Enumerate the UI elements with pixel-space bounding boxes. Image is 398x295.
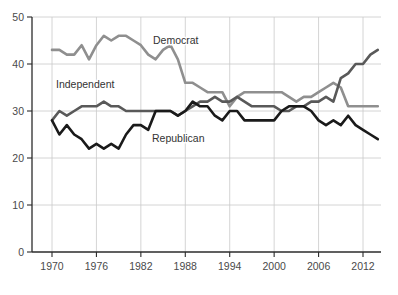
x-tick-label: 1970 [40, 260, 64, 272]
y-tick-label: 20 [12, 152, 24, 164]
x-tick-label: 2000 [262, 260, 286, 272]
y-tick-label: 30 [12, 105, 24, 117]
chart-canvas: 01020304050 1970197619821988199420002006… [0, 0, 398, 295]
y-tick-label: 10 [12, 199, 24, 211]
y-tick-label: 0 [18, 246, 24, 258]
x-tick-label: 1994 [218, 260, 242, 272]
series-annotation-democrat: Democrat [153, 34, 199, 46]
series-annotation-independent: Independent [56, 78, 114, 90]
y-tick-label: 50 [12, 11, 24, 23]
x-tick-label: 1976 [85, 260, 109, 272]
x-tick-label: 2012 [351, 260, 375, 272]
y-tick-label: 40 [12, 58, 24, 70]
series-annotation-republican: Republican [152, 132, 205, 144]
chart-background [0, 0, 398, 295]
x-tick-label: 2006 [307, 260, 331, 272]
x-tick-label: 1988 [174, 260, 198, 272]
x-tick-label: 1982 [129, 260, 153, 272]
party-identification-chart: 01020304050 1970197619821988199420002006… [0, 0, 398, 295]
